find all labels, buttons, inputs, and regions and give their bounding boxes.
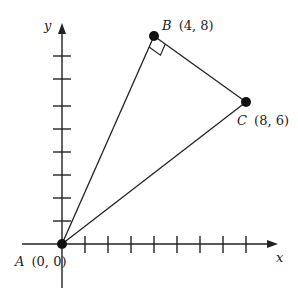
x-axis-arrow-icon <box>267 240 278 248</box>
point-a <box>57 239 67 249</box>
triangle-diagram: y x A (0, 0) B (4, 8) C (8, 6) <box>0 0 298 304</box>
x-axis-label: x <box>276 250 284 265</box>
right-angle-marker <box>149 44 165 55</box>
point-b-label: B (4, 8) <box>161 18 214 33</box>
y-axis-arrow-icon <box>58 23 66 34</box>
triangle-abc <box>62 36 246 244</box>
point-a-label: A (0, 0) <box>14 254 66 269</box>
y-axis-label: y <box>43 18 52 33</box>
coordinate-axes <box>22 32 270 288</box>
point-b <box>149 31 159 41</box>
point-c <box>241 97 251 107</box>
segment-ac <box>62 102 246 244</box>
segment-ab <box>62 36 154 244</box>
segment-bc <box>154 36 246 102</box>
point-c-label: C (8, 6) <box>237 113 289 128</box>
